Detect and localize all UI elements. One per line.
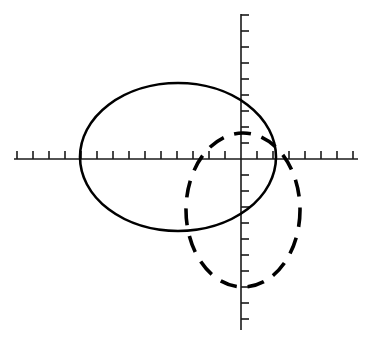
- coordinate-plane-figure: [0, 0, 372, 343]
- plot-canvas: [0, 0, 372, 343]
- figure-background: [0, 0, 372, 343]
